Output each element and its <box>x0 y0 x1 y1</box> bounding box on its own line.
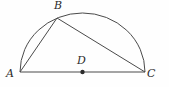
geometry-canvas <box>0 0 169 87</box>
point-label-c: C <box>147 68 155 79</box>
point-D-dot <box>80 70 84 74</box>
point-label-d: D <box>77 55 86 66</box>
point-label-b: B <box>54 0 62 11</box>
segment-AB <box>20 18 57 72</box>
geometry-figure: A B C D <box>0 0 169 87</box>
point-label-a: A <box>6 68 14 79</box>
segment-BC <box>57 18 145 72</box>
